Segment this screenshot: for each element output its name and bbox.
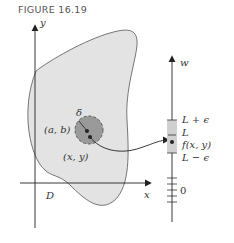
limit-label: L — [181, 127, 189, 138]
delta-disk — [75, 116, 103, 144]
upper-bound-label: L + ϵ — [181, 114, 209, 125]
limit-diagram: y x D δ (a, b) (x, y) w L + ϵ L f(x, y) … — [0, 0, 234, 243]
f-value-label: f(x, y) — [181, 139, 211, 150]
y-axis-label: y — [39, 17, 46, 28]
center-label: (a, b) — [44, 124, 71, 135]
f-value-point — [170, 140, 174, 144]
zero-label: 0 — [180, 185, 186, 196]
lower-bound-label: L − ϵ — [181, 152, 209, 163]
point-label: (x, y) — [63, 151, 89, 162]
center-point — [85, 129, 89, 133]
delta-label: δ — [76, 107, 82, 118]
epsilon-interval — [167, 120, 177, 153]
x-axis-label: x — [144, 189, 150, 200]
region-label: D — [45, 190, 54, 201]
w-axis-label: w — [180, 57, 189, 68]
